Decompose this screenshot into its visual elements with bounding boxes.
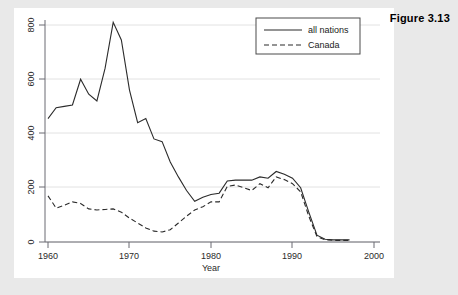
series-line-all-nations xyxy=(48,22,350,240)
x-axis-title: Year xyxy=(202,263,220,273)
y-tick-label-600: 600 xyxy=(26,71,36,86)
y-tick-label-800: 800 xyxy=(26,17,36,32)
y-tick-label-0: 0 xyxy=(26,239,36,244)
y-tick-label-400: 400 xyxy=(26,125,36,140)
x-tick-label-1980: 1980 xyxy=(201,251,221,261)
y-tick-label-200: 200 xyxy=(26,179,36,194)
x-tick-label-2000: 2000 xyxy=(364,251,384,261)
line-chart: 800 600 400 200 0 1960 1970 1980 1990 20… xyxy=(14,8,394,278)
x-axis: 1960 1970 1980 1990 2000 Year xyxy=(38,242,384,273)
x-tick-label-1970: 1970 xyxy=(119,251,139,261)
series-group xyxy=(48,22,350,240)
y-axis: 800 600 400 200 0 xyxy=(26,17,45,244)
legend-label-all-nations: all nations xyxy=(308,25,349,35)
chart-canvas: 800 600 400 200 0 1960 1970 1980 1990 20… xyxy=(14,8,394,278)
chart-legend[interactable]: all nations Canada xyxy=(256,18,360,54)
x-tick-label-1990: 1990 xyxy=(282,251,302,261)
x-tick-label-1960: 1960 xyxy=(38,251,58,261)
legend-label-canada: Canada xyxy=(308,40,340,50)
series-line-canada xyxy=(48,177,350,240)
figure-title: Figure 3.13 xyxy=(390,12,450,24)
figure-container: 800 600 400 200 0 1960 1970 1980 1990 20… xyxy=(0,0,458,295)
